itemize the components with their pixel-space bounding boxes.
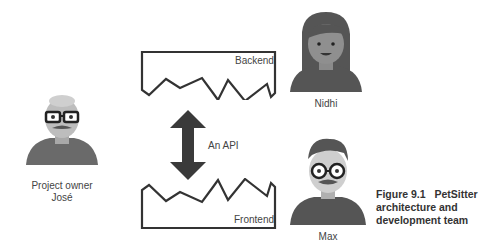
max-label: Max	[298, 231, 358, 243]
project-owner-label: Project owner José	[10, 180, 114, 204]
figure-caption: Figure 9.1 PetSitter architecture and de…	[376, 188, 488, 227]
nidhi-label: Nidhi	[296, 98, 356, 110]
project-owner-role: Project owner	[10, 180, 114, 192]
avatar-max	[288, 135, 368, 225]
avatar-nidhi	[286, 12, 366, 92]
project-owner-name: José	[10, 192, 114, 204]
avatar-project-owner	[22, 90, 102, 165]
frontend-label: Frontend	[234, 214, 274, 225]
backend-label: Backend	[235, 55, 274, 66]
figure-title-3: development team	[376, 214, 488, 227]
figure-number: Figure 9.1	[376, 188, 426, 200]
figure-title-2: architecture and	[376, 201, 488, 214]
api-label: An API	[208, 140, 239, 151]
api-double-arrow-icon	[170, 110, 206, 180]
figure-title-1: PetSitter	[434, 188, 477, 200]
